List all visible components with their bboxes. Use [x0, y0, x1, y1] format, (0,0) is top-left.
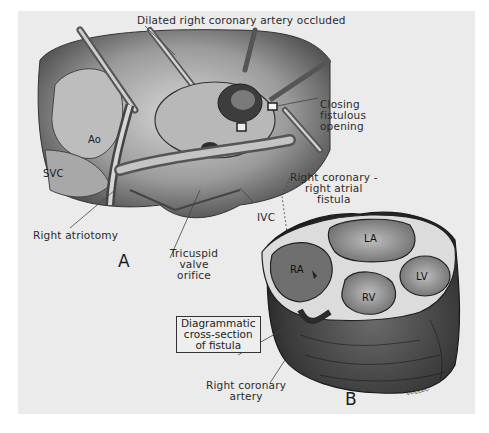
label-tricuspid-valve-orifice: Tricuspid valve orifice [170, 248, 218, 281]
label-line: artery [206, 391, 286, 402]
label-right-coronary-artery: Right coronary artery [206, 380, 286, 402]
label-line: opening [320, 121, 366, 132]
label-line: fistula [290, 194, 378, 205]
panel-letter-b-text: B [345, 389, 357, 409]
label-la: LA [364, 233, 377, 244]
label-dilated-rca-occluded: Dilated right coronary artery occluded [137, 15, 346, 26]
label-ao: Ao [88, 134, 101, 145]
label-ra: RA [290, 264, 304, 275]
panel-a-illustration [38, 30, 330, 218]
panel-letter-b: B [345, 391, 357, 408]
label-closing-fistulous-opening: Closing fistulous opening [320, 99, 366, 132]
panel-b-illustration [262, 212, 460, 393]
label-rv: RV [362, 292, 376, 303]
label-svc: SVC [43, 168, 64, 179]
label-diagrammatic-cross-section: Diagrammatic cross-section of fistula [176, 316, 261, 353]
medical-illustration [0, 0, 489, 433]
label-line: of fistula [181, 340, 256, 351]
label-line: orifice [170, 270, 218, 281]
label-right-atriotomy: Right atriotomy [33, 230, 118, 241]
label-ivc: IVC [257, 212, 275, 223]
label-lv: LV [416, 271, 428, 282]
label-rca-ra-fistula: Right coronary - right atrial fistula [290, 172, 378, 205]
panel-letter-a: A [118, 253, 130, 270]
